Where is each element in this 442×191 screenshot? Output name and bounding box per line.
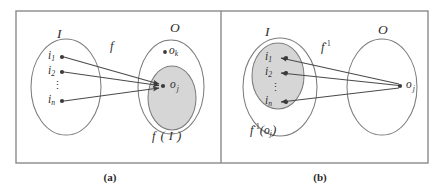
panel-a-label-i1-sub: 1 bbox=[51, 54, 55, 63]
panel-a-vertical-dots: ⋮ bbox=[52, 79, 63, 91]
panel-a-label-image-close: ) bbox=[176, 128, 181, 143]
panel-a-dot-in bbox=[60, 99, 64, 103]
panel-a-label-image: f ( I ) bbox=[152, 127, 181, 144]
panel-a-label-oj-base: o bbox=[170, 78, 176, 90]
panel-a-dot-i2 bbox=[60, 70, 64, 74]
panel-a-label-in-sub: n bbox=[51, 98, 55, 107]
panel-a-label-image-arg: I bbox=[168, 129, 174, 143]
panel-b-label-in-sub: n bbox=[268, 99, 272, 108]
panel-a-dot-oj bbox=[161, 84, 165, 88]
panel-b-label-finv: f-1 bbox=[321, 39, 331, 54]
panel-a-caption: (a) bbox=[104, 171, 117, 184]
panel-a: I O f f ( I ) i1 i2 ⋮ in bbox=[31, 20, 204, 183]
panel-b-label-finv-sup: -1 bbox=[324, 39, 330, 48]
panel-b-dot-oj bbox=[398, 84, 402, 88]
panel-a-label-oj-sub: j bbox=[176, 84, 179, 93]
panel-a-label-i2-sub: 2 bbox=[51, 69, 55, 78]
panel-a-label-image-fn: f bbox=[152, 129, 157, 143]
panel-b-dot-i2 bbox=[284, 71, 288, 75]
panel-b-caption: (b) bbox=[313, 171, 327, 184]
function-inverse-diagram: I O f f ( I ) i1 i2 ⋮ in bbox=[0, 0, 442, 191]
panel-b-label-preimage-close: ) bbox=[271, 122, 276, 137]
panel-a-dot-i1 bbox=[60, 55, 64, 59]
panel-b-dot-in bbox=[284, 100, 288, 104]
panel-b-dot-i1 bbox=[284, 56, 288, 60]
panel-b-label-i1-sub: 1 bbox=[268, 55, 272, 64]
panel-a-set-I-ellipse bbox=[31, 39, 101, 135]
panel-a-dot-ok bbox=[163, 50, 167, 54]
panel-b-label-oj-sub: j bbox=[412, 84, 415, 93]
panel-b-label-oj-base: o bbox=[406, 78, 412, 90]
panel-a-image-fI-ellipse bbox=[148, 66, 196, 130]
panel-b: I O f-1 f-1(oj) i1 i2 ⋮ in bbox=[243, 22, 417, 183]
panel-a-label-f: f bbox=[110, 39, 115, 53]
panel-b-vertical-dots: ⋮ bbox=[270, 81, 281, 93]
panel-a-label-image-open: ( bbox=[160, 128, 165, 143]
panel-b-label-I: I bbox=[264, 24, 271, 39]
panel-b-label-preimage: f-1(oj) bbox=[250, 122, 276, 138]
figure-container: I O f f ( I ) i1 i2 ⋮ in bbox=[0, 0, 442, 191]
panel-b-label-O: O bbox=[378, 22, 388, 37]
panel-b-label-i2-sub: 2 bbox=[268, 70, 272, 79]
panel-b-preimage-ellipse bbox=[252, 43, 304, 109]
panel-a-label-O: O bbox=[170, 20, 180, 35]
